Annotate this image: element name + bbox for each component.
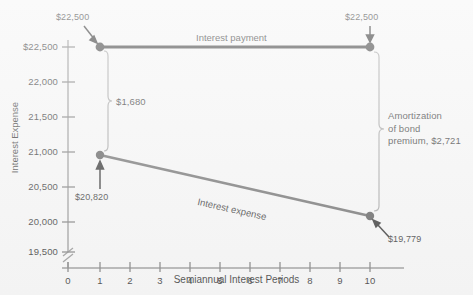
bracket-first-period-amortization [104,51,112,151]
y-tick-label-20000: 20,000 [0,216,58,227]
series-label-interest-payment: Interest payment [196,32,267,43]
chart-plot-area [0,0,473,295]
bracket-label-total-amortization: Amortization of bond premium, $2,721 [388,110,461,148]
bond-premium-amortization-chart: $22,500 22,000 21,500 21,000 20,500 20,0… [0,0,473,295]
x-axis-title: Semiannual Interest Periods [0,274,473,285]
callout-arrow-bottom-left [97,161,104,189]
bracket-label-first-period-amortization: $1,680 [116,96,146,107]
y-tick-label-19500: 19,500 [0,246,58,257]
data-point-payment-period-10 [366,43,375,52]
point-label-expense-period-10: $19,779 [388,234,421,245]
callout-arrow-bottom-right [373,220,389,237]
callout-arrow-top-left [84,26,97,43]
y-tick-label-22500: $22,500 [0,41,58,52]
y-tick-label-22000: 22,000 [0,76,58,87]
data-point-payment-period-1 [96,43,105,52]
point-label-payment-period-1: $22,500 [56,12,89,23]
data-point-expense-period-1 [96,151,104,159]
point-label-expense-period-1: $20,820 [75,192,108,203]
bracket-total-amortization [374,52,384,211]
y-axis-title: Interest Expense [9,96,20,180]
data-point-expense-period-10 [366,212,374,220]
point-label-payment-period-10: $22,500 [345,12,378,23]
y-tick-label-20500: 20,500 [0,181,58,192]
callout-arrow-top-right [367,26,374,42]
x-axis-ticks [68,262,370,272]
